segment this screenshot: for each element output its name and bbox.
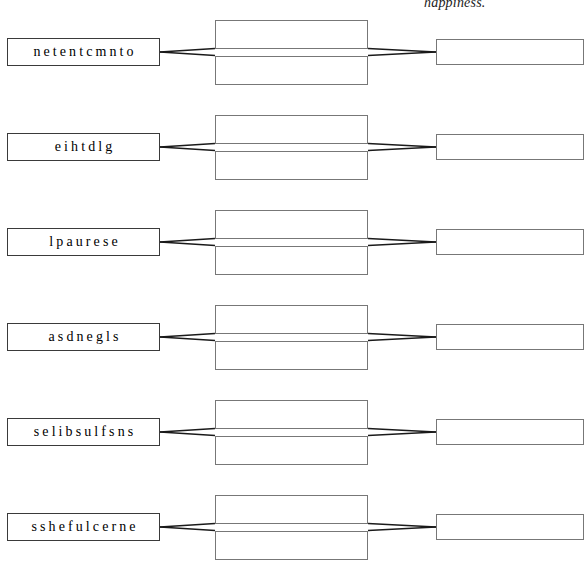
worksheet-page: happiness. netentcmntoeihtdlglpaureseasd…: [0, 0, 588, 581]
scramble-box: eihtdlg: [7, 133, 160, 161]
connector-top-to-right: [368, 334, 436, 338]
scramble-word: eihtdlg: [52, 140, 116, 154]
connector-bottom-to-right: [368, 242, 436, 246]
middle-answer-box-bottom[interactable]: [215, 531, 368, 560]
connector-bottom-to-right: [368, 432, 436, 436]
connector-bottom-to-right: [368, 337, 436, 341]
scramble-word: lpaurese: [46, 235, 121, 249]
right-answer-box[interactable]: [436, 39, 584, 65]
connector-top-to-right: [368, 524, 436, 528]
connector-left-to-bottom: [160, 337, 215, 341]
connector-left-to-top: [160, 334, 215, 338]
scramble-word: sshefulcerne: [28, 520, 138, 534]
scramble-word: asdnegls: [45, 330, 121, 344]
middle-answer-box-top[interactable]: [215, 305, 368, 334]
connector-left-to-bottom: [160, 52, 215, 56]
middle-answer-box-bottom[interactable]: [215, 151, 368, 180]
middle-answer-box-top[interactable]: [215, 115, 368, 144]
scramble-box: sshefulcerne: [7, 513, 160, 541]
connector-left-to-top: [160, 429, 215, 433]
middle-answer-box-bottom[interactable]: [215, 246, 368, 275]
connector-left-to-bottom: [160, 242, 215, 246]
connector-left-to-top: [160, 524, 215, 528]
scramble-word: netentcmnto: [30, 45, 136, 59]
connector-left-to-top: [160, 49, 215, 53]
connector-left-to-bottom: [160, 147, 215, 151]
right-answer-box[interactable]: [436, 324, 584, 350]
middle-answer-box-top[interactable]: [215, 495, 368, 524]
connector-left-to-bottom: [160, 527, 215, 531]
connector-top-to-right: [368, 144, 436, 148]
connector-left-to-bottom: [160, 432, 215, 436]
connector-left-to-top: [160, 144, 215, 148]
scramble-box: netentcmnto: [7, 38, 160, 66]
middle-answer-box-top[interactable]: [215, 210, 368, 239]
connector-bottom-to-right: [368, 147, 436, 151]
right-answer-box[interactable]: [436, 419, 584, 445]
middle-answer-box-top[interactable]: [215, 20, 368, 49]
connector-top-to-right: [368, 49, 436, 53]
connector-bottom-to-right: [368, 52, 436, 56]
connector-top-to-right: [368, 429, 436, 433]
right-answer-box[interactable]: [436, 514, 584, 540]
scramble-box: lpaurese: [7, 228, 160, 256]
connector-left-to-top: [160, 239, 215, 243]
middle-answer-box-bottom[interactable]: [215, 341, 368, 370]
right-answer-box[interactable]: [436, 229, 584, 255]
clipped-caption-happiness: happiness.: [424, 0, 486, 10]
connector-bottom-to-right: [368, 527, 436, 531]
scramble-box: selibsulfsns: [7, 418, 160, 446]
connector-top-to-right: [368, 239, 436, 243]
scramble-word: selibsulfsns: [31, 425, 137, 439]
middle-answer-box-top[interactable]: [215, 400, 368, 429]
scramble-box: asdnegls: [7, 323, 160, 351]
right-answer-box[interactable]: [436, 134, 584, 160]
middle-answer-box-bottom[interactable]: [215, 56, 368, 85]
middle-answer-box-bottom[interactable]: [215, 436, 368, 465]
